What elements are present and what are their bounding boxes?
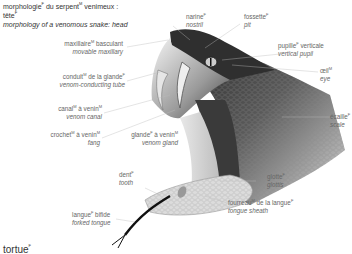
label-scale: écailleF scale (330, 113, 350, 129)
label-fang: crochetM à veninM fang (20, 131, 100, 147)
label-tooth: dentF tooth (119, 171, 134, 187)
label-pit: fossetteF pit (244, 13, 269, 29)
snake-head-illustration (0, 0, 352, 254)
label-venom-canal: canalM à veninM venom canal (30, 105, 102, 121)
label-venom-gland: glandeF à veninM venom gland (118, 131, 178, 147)
label-movable-maxillary: maxillaireM basculant movable maxillary (38, 40, 123, 56)
label-vertical-pupil: pupilleF verticale vertical pupil (278, 42, 324, 58)
label-tongue-sheath: fourreauM de la langueF tongue sheath (228, 199, 293, 215)
next-section-heading: tortueF (3, 244, 31, 254)
label-venom-conducting-tube: conduitM de la glandeF venom-conducting … (30, 73, 125, 89)
label-glottis: glotteF glottis (267, 173, 285, 189)
label-nostril: narineF nostril (186, 13, 206, 29)
label-forked-tongue: langueF bifide forked tongue (72, 211, 111, 227)
label-eye: œilM eye (320, 67, 332, 83)
